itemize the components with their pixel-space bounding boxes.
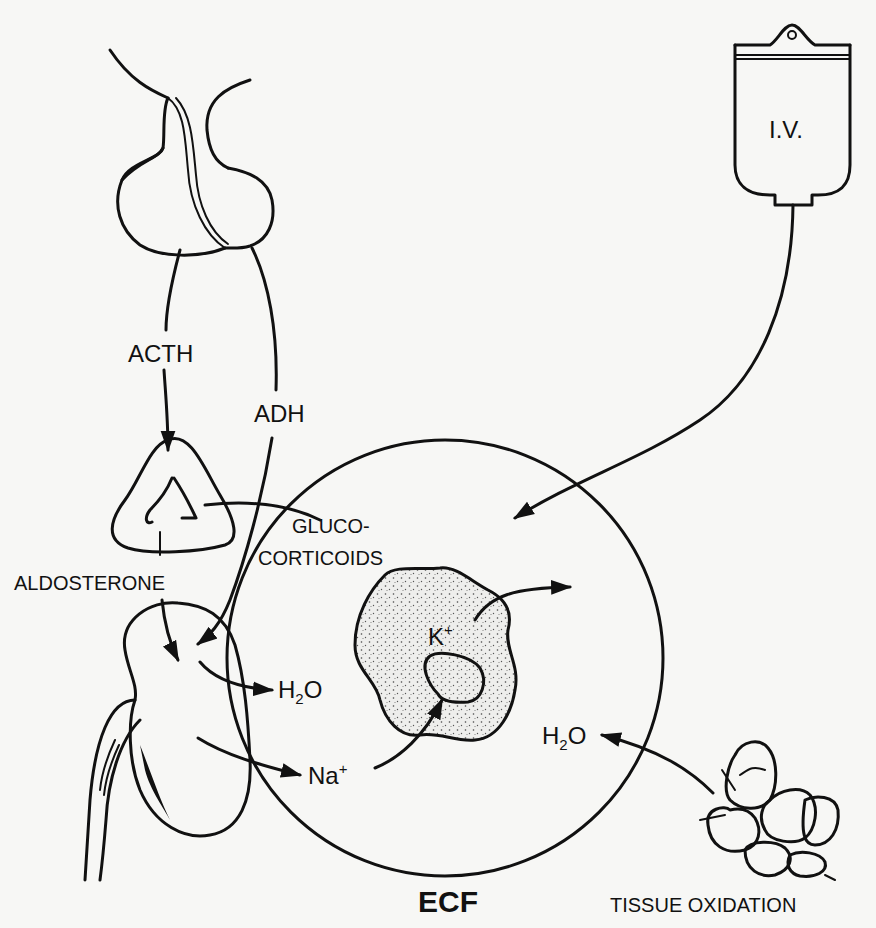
acth-label: ACTH (128, 340, 193, 367)
potassium-charge: + (444, 621, 453, 638)
kidney-water-h: H (278, 676, 295, 703)
glucocorticoids-label-line2: CORTICOIDS (258, 547, 383, 569)
iv-bag (735, 25, 850, 205)
acth-arrow (166, 250, 180, 330)
sodium-symbol: Na (308, 762, 339, 789)
sodium-charge: + (339, 760, 348, 777)
tissue-water-h: H (542, 722, 559, 749)
adh-label: ADH (254, 400, 305, 427)
kidney-water-o: O (304, 676, 323, 703)
kidney-water-subscript: 2 (295, 690, 303, 707)
tissue-water-subscript: 2 (559, 736, 567, 753)
tissue-cells (700, 742, 838, 880)
electrolyte-regulation-diagram: ACTH ADH ALDOSTERONE GLUCO- CORTICOIDS H… (0, 0, 876, 928)
adrenal-gland (112, 438, 234, 552)
glucocorticoids-label-line1: GLUCO- (292, 515, 370, 537)
tissue-water-arrow (602, 735, 713, 793)
acth-arrow-lower (164, 370, 168, 450)
iv-label: I.V. (769, 116, 803, 143)
sodium-label: Na+ (308, 760, 348, 789)
adh-arrow-upper (252, 248, 276, 390)
aldosterone-arrow (162, 600, 178, 660)
kidney-water-label: H2O (278, 676, 322, 707)
kidney-water-arrow (200, 662, 272, 690)
tissue-water-o: O (568, 722, 587, 749)
ecf-label: ECF (418, 885, 478, 918)
tissue-water-label: H2O (542, 722, 586, 753)
potassium-symbol: K (428, 623, 444, 650)
kidney (85, 603, 250, 880)
tissue-oxidation-label: TISSUE OXIDATION (610, 894, 796, 916)
pituitary-gland (110, 50, 273, 255)
aldosterone-label: ALDOSTERONE (14, 572, 165, 594)
